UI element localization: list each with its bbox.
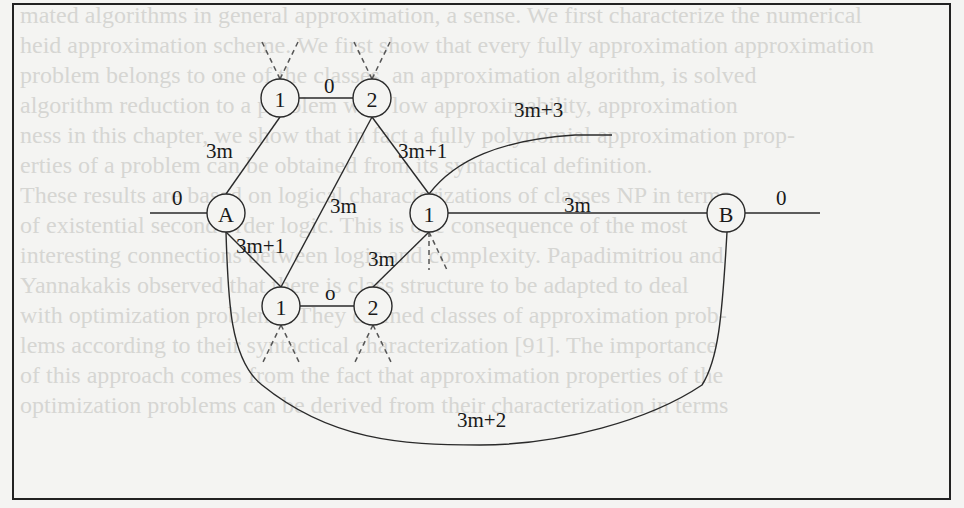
edge-mid1-out [429, 135, 612, 194]
label-b-right: 0 [776, 186, 787, 210]
label-bot-o: o [325, 281, 336, 305]
svg-text:2: 2 [367, 87, 378, 112]
node-mid-1: 1 [410, 194, 448, 232]
label-top2-mid1: 3m+1 [398, 139, 447, 163]
edge-top1-a [226, 117, 280, 194]
label-mid1-out: 3m+3 [514, 98, 563, 122]
node-bot-1: 1 [262, 287, 300, 325]
svg-text:A: A [218, 202, 234, 227]
label-bot2-mid1: 3m [368, 247, 395, 271]
edge-top2-bot1 [281, 117, 372, 287]
node-a: A [207, 194, 245, 232]
label-a-left: 0 [172, 186, 183, 210]
svg-text:1: 1 [276, 295, 287, 320]
node-b: B [707, 194, 745, 232]
label-a-b-curve: 3m+2 [457, 408, 506, 432]
node-top-2: 2 [353, 79, 391, 117]
node-bot-2: 2 [354, 287, 392, 325]
label-top-0: 0 [324, 74, 335, 98]
label-a-top1: 3m [206, 139, 233, 163]
svg-text:1: 1 [275, 87, 286, 112]
label-bot1-top2: 3m [330, 194, 357, 218]
label-mid1-b: 3m [564, 193, 591, 217]
edge-labels: 0 3m 3m+1 3m+3 0 3m 3m 0 3m+1 3m o 3m+2 [172, 74, 787, 432]
node-top-1: 1 [261, 79, 299, 117]
svg-text:2: 2 [368, 295, 379, 320]
label-a-bot1: 3m+1 [236, 234, 285, 258]
graph-diagram: 1 2 A 1 B 1 2 0 3m 3m+1 [0, 0, 964, 508]
edges [150, 98, 820, 445]
svg-text:1: 1 [424, 202, 435, 227]
svg-text:B: B [719, 202, 734, 227]
figure-page: mated algorithms in general approximatio… [0, 0, 964, 508]
